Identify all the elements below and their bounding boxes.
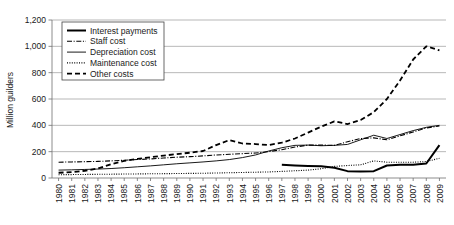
x-tick-label: 1986 [133, 184, 143, 203]
x-tick-label: 1983 [93, 184, 103, 203]
legend-label: Staff cost [90, 36, 126, 46]
x-tick-label: 1991 [198, 184, 208, 203]
legend-label: Maintenance cost [90, 58, 157, 68]
legend-label: Depreciation cost [90, 47, 156, 57]
x-tick-label: 1997 [277, 184, 287, 203]
y-tick-marks-group [49, 20, 53, 178]
y-tick-label: 400 [32, 120, 46, 130]
x-tick-label: 1998 [290, 184, 300, 203]
y-tick-label: 1,000 [25, 41, 47, 51]
series-line-interest-payments [282, 145, 440, 171]
chart-legend: Interest paymentsStaff costDepreciation … [62, 22, 164, 80]
y-tick-label: 200 [32, 147, 46, 157]
x-tick-label: 1994 [238, 184, 248, 203]
x-tick-label: 1981 [67, 184, 77, 203]
x-tick-label: 2005 [382, 184, 392, 203]
legend-label: Interest payments [90, 26, 158, 36]
x-tick-label: 2009 [435, 184, 445, 203]
x-tick-label: 1995 [251, 184, 261, 203]
x-tick-label: 2006 [395, 184, 405, 203]
y-axis-label: Million guilders [5, 72, 15, 128]
x-tick-label: 1999 [303, 184, 313, 203]
x-tick-label: 1985 [119, 184, 129, 203]
x-tick-label: 2003 [356, 184, 366, 203]
x-tick-label: 2000 [316, 184, 326, 203]
x-tick-labels-group: 1980198119821983198419851986198719881989… [54, 178, 445, 203]
line-chart: 02004006008001,0001,200 1980198119821983… [0, 0, 454, 225]
y-tick-label: 800 [32, 68, 46, 78]
x-tick-label: 2008 [422, 184, 432, 203]
x-tick-label: 2007 [408, 184, 418, 203]
x-tick-label: 1988 [159, 184, 169, 203]
y-tick-label: 0 [41, 173, 46, 183]
y-tick-label: 1,200 [25, 15, 47, 25]
x-tick-label: 1984 [106, 184, 116, 203]
x-tick-label: 1982 [80, 184, 90, 203]
legend-label: Other costs [90, 69, 133, 79]
x-tick-label: 1996 [264, 184, 274, 203]
y-tick-labels-group: 02004006008001,0001,200 [25, 15, 47, 183]
x-tick-label: 1993 [225, 184, 235, 203]
chart-container: 02004006008001,0001,200 1980198119821983… [0, 0, 454, 225]
x-tick-label: 1990 [185, 184, 195, 203]
x-tick-label: 2001 [330, 184, 340, 203]
y-tick-label: 600 [32, 94, 46, 104]
x-tick-label: 2004 [369, 184, 379, 203]
x-tick-label: 1987 [146, 184, 156, 203]
x-tick-label: 1980 [54, 184, 64, 203]
x-tick-label: 1992 [211, 184, 221, 203]
x-tick-label: 1989 [172, 184, 182, 203]
x-tick-label: 2002 [343, 184, 353, 203]
